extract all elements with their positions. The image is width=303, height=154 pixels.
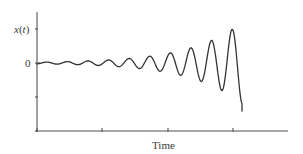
signal-curve [37, 29, 242, 111]
x-axis-label: Time [152, 140, 175, 151]
y-label-close-paren: ) [26, 23, 30, 35]
zero-tick-label: 0 [25, 58, 31, 69]
growing-oscillation-chart [0, 0, 303, 154]
axes [35, 12, 288, 132]
y-axis-label: x(t) [14, 24, 29, 35]
